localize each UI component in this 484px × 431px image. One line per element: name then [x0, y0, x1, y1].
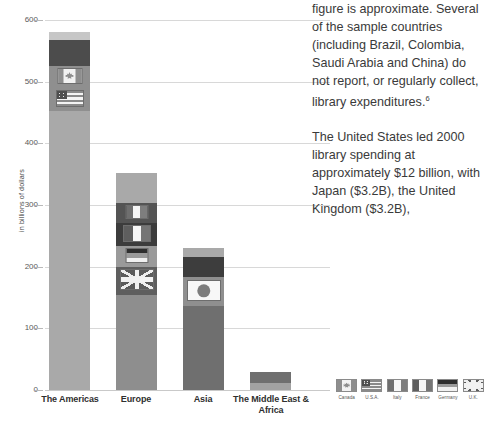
bar-segment-japan[interactable] — [183, 277, 224, 306]
uk-flag-icon — [464, 380, 483, 391]
bar-chart-figure: in billions of dollars 01002003004005006… — [0, 0, 330, 431]
legend-item-france[interactable]: France — [412, 379, 433, 400]
y-tick-label: 500 — [0, 77, 38, 86]
japan-flag-icon — [188, 281, 220, 300]
bar-segment-italy[interactable] — [116, 203, 157, 223]
uk-flag-badge — [120, 269, 154, 290]
x-axis-label: The Middle East & Africa — [228, 394, 314, 416]
y-tick-label: 100 — [0, 323, 38, 332]
bar-segment-canada[interactable] — [49, 66, 90, 88]
legend-label: U.S.A. — [365, 395, 379, 400]
legend-swatch — [463, 379, 484, 392]
bar-stack — [250, 372, 291, 391]
y-tick-label: 300 — [0, 200, 38, 209]
legend-label: France — [415, 395, 430, 400]
italy-flag-icon — [126, 206, 147, 218]
bar-segment[interactable] — [250, 383, 291, 390]
bar-segment[interactable] — [183, 248, 224, 257]
chart-legend: CanadaU.S.A.ItalyFranceGermanyU.K. — [336, 379, 484, 423]
legend-swatch — [336, 379, 357, 392]
canada-flag-icon — [337, 380, 356, 391]
footnote-marker: 6 — [425, 94, 429, 103]
bar-segment[interactable] — [49, 111, 90, 390]
bar-segment[interactable] — [116, 295, 157, 390]
canada-flag-icon — [58, 69, 81, 83]
bar-europe[interactable] — [116, 173, 157, 390]
gridline — [45, 20, 330, 21]
usa-flag-badge — [56, 90, 84, 107]
france-flag-icon — [124, 226, 150, 241]
bar-segment[interactable] — [183, 306, 224, 390]
bar-segment-france[interactable] — [116, 223, 157, 246]
gridline — [45, 390, 330, 391]
bar-segment[interactable] — [49, 32, 90, 39]
paragraph-2: The United States led 2000 library spend… — [312, 128, 484, 218]
plot-area: 0100200300400500600 The AmericasEuropeAs… — [45, 20, 330, 390]
legend-item-germany[interactable]: Germany — [437, 379, 458, 400]
bar-segment-uk[interactable] — [116, 267, 157, 295]
x-axis-label: Europe — [99, 394, 173, 405]
usa-flag-icon — [362, 380, 381, 391]
x-axis-label: The Americas — [31, 394, 109, 405]
bar-segment[interactable] — [183, 257, 224, 277]
germany-flag-icon — [438, 380, 457, 391]
legend-item-uk[interactable]: U.K. — [463, 379, 484, 400]
bar-segment-germany[interactable] — [116, 246, 157, 266]
legend-swatch — [387, 379, 408, 392]
bar-stack — [183, 248, 224, 390]
bar-the-americas[interactable] — [49, 32, 90, 390]
legend-label: U.K. — [469, 395, 478, 400]
canada-flag-badge — [57, 68, 82, 84]
legend-label: Canada — [338, 395, 354, 400]
uk-flag-icon — [121, 270, 153, 289]
france-flag-badge — [123, 225, 151, 242]
y-tick-mark — [35, 143, 43, 144]
legend-item-canada[interactable]: Canada — [336, 379, 357, 400]
bar-stack — [49, 32, 90, 390]
paragraph-1: figure is approximate. Several of the sa… — [312, 0, 484, 112]
italy-flag-badge — [125, 205, 148, 219]
germany-flag-badge — [125, 248, 148, 262]
germany-flag-icon — [126, 249, 147, 261]
y-tick-mark — [35, 267, 43, 268]
bar-segment[interactable] — [250, 372, 291, 383]
italy-flag-icon — [388, 380, 407, 391]
bar-stack — [116, 173, 157, 390]
y-tick-mark — [35, 20, 43, 21]
legend-item-italy[interactable]: Italy — [387, 379, 408, 400]
bar-segment[interactable] — [49, 40, 90, 67]
article-text-column: figure is approximate. Several of the sa… — [312, 0, 484, 234]
page-root: in billions of dollars 01002003004005006… — [0, 0, 484, 431]
usa-flag-icon — [57, 91, 83, 106]
bar-segment[interactable] — [116, 173, 157, 203]
legend-swatch — [361, 379, 382, 392]
legend-swatch — [437, 379, 458, 392]
y-tick-mark — [35, 390, 43, 391]
y-tick-label: 400 — [0, 138, 38, 147]
y-tick-mark — [35, 328, 43, 329]
legend-label: Germany — [438, 395, 457, 400]
paragraph-1-text: figure is approximate. Several of the sa… — [312, 2, 479, 110]
legend-swatch — [412, 379, 433, 392]
bar-segment-usa[interactable] — [49, 88, 90, 111]
bar-the-middle-east-africa[interactable] — [250, 372, 291, 391]
y-tick-mark — [35, 82, 43, 83]
japan-flag-badge — [187, 280, 221, 301]
france-flag-icon — [413, 380, 432, 391]
y-tick-label: 0 — [0, 385, 38, 394]
bar-asia[interactable] — [183, 248, 224, 390]
y-tick-label: 600 — [0, 15, 38, 24]
legend-label: Italy — [393, 395, 402, 400]
y-tick-label: 200 — [0, 262, 38, 271]
legend-item-usa[interactable]: U.S.A. — [361, 379, 382, 400]
y-tick-mark — [35, 205, 43, 206]
